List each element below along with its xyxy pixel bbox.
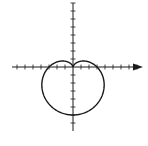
axes: [12, 3, 137, 131]
x-axis-arrowhead-icon: [133, 64, 143, 71]
polar-cardioid-plot: [0, 0, 148, 146]
